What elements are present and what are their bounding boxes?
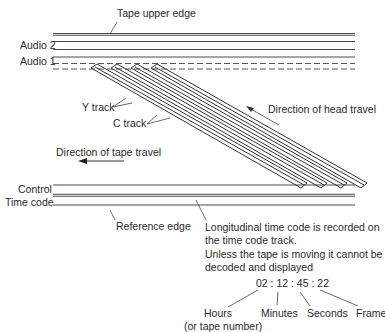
hours-leader xyxy=(228,290,258,307)
seconds-leader xyxy=(300,292,310,306)
seconds-label: Seconds xyxy=(307,307,348,319)
hours-label: Hours xyxy=(204,307,232,319)
timecode-note-leader xyxy=(196,200,206,220)
reference-edge-leader xyxy=(110,210,115,220)
helical-tape-track-diagram: Tape upper edge Audio 2 Audio 1 Y track … xyxy=(0,0,385,332)
frame-label: Frame xyxy=(356,307,385,319)
note-line-3: Unless the tape is moving it cannot be xyxy=(205,248,383,260)
timecode-value: 02 : 12 : 45 : 22 xyxy=(256,277,329,289)
time-code-label: Time code xyxy=(5,196,54,208)
tape-upper-edge-leader xyxy=(110,22,117,34)
helical-track-4 xyxy=(151,64,367,188)
minutes-leader xyxy=(277,292,278,305)
control-label: Control xyxy=(18,183,52,195)
tape-travel-label: Direction of tape travel xyxy=(56,146,161,158)
note-line-1: Longitudinal time code is recorded on xyxy=(205,221,380,233)
frame-leader xyxy=(320,290,358,306)
upper-tape-lines xyxy=(53,34,355,70)
audio2-label: Audio 2 xyxy=(20,39,56,51)
lower-tape-lines xyxy=(53,185,355,205)
note-line-4: decoded and displayed xyxy=(205,261,313,273)
helical-track-3 xyxy=(131,64,347,188)
tape-upper-edge-label: Tape upper edge xyxy=(117,7,196,19)
head-travel-label: Direction of head travel xyxy=(268,103,376,115)
audio1-label: Audio 1 xyxy=(20,55,56,67)
hours-sub-label: (or tape number) xyxy=(184,320,262,332)
y-track-label: Y track xyxy=(82,101,115,113)
c-track-label: C track xyxy=(113,117,147,129)
note-line-2: the time code track. xyxy=(205,234,297,246)
reference-edge-label: Reference edge xyxy=(116,220,191,232)
head-travel-arrowhead-icon xyxy=(246,106,254,112)
minutes-label: Minutes xyxy=(261,307,298,319)
tape-travel-arrowhead-icon xyxy=(78,158,87,164)
